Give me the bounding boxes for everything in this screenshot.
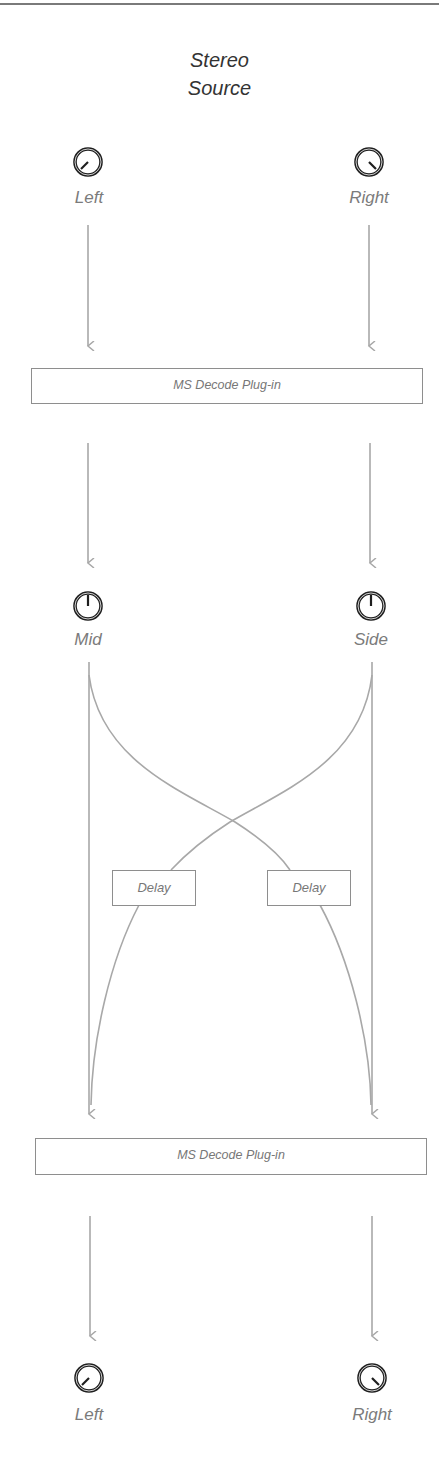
ms-decode-plugin-bottom[interactable]: MS Decode Plug-in [35,1138,427,1175]
left-output-label: Left [49,1405,129,1425]
mid-label: Mid [48,630,128,650]
left-input-knob-icon[interactable] [72,146,104,178]
side-label: Side [331,630,411,650]
left-input-label: Left [49,188,129,208]
ms-decode-plugin-top[interactable]: MS Decode Plug-in [31,368,423,404]
right-output-label: Right [332,1405,412,1425]
right-input-knob-icon[interactable] [353,146,385,178]
curve-mid-to-right-delay [89,675,290,870]
right-output-knob-icon[interactable] [356,1362,388,1394]
delay-box-right[interactable]: Delay [267,870,351,906]
left-output-knob-icon[interactable] [73,1362,105,1394]
curve-right-delay-out [320,905,371,1105]
delay-box-left[interactable]: Delay [112,870,196,906]
mid-knob-icon[interactable] [72,590,104,622]
right-input-label: Right [329,188,409,208]
signal-flow-wires [0,0,439,1474]
curve-left-delay-out [91,905,139,1105]
side-knob-icon[interactable] [355,590,387,622]
curve-side-to-left-delay [171,675,372,870]
